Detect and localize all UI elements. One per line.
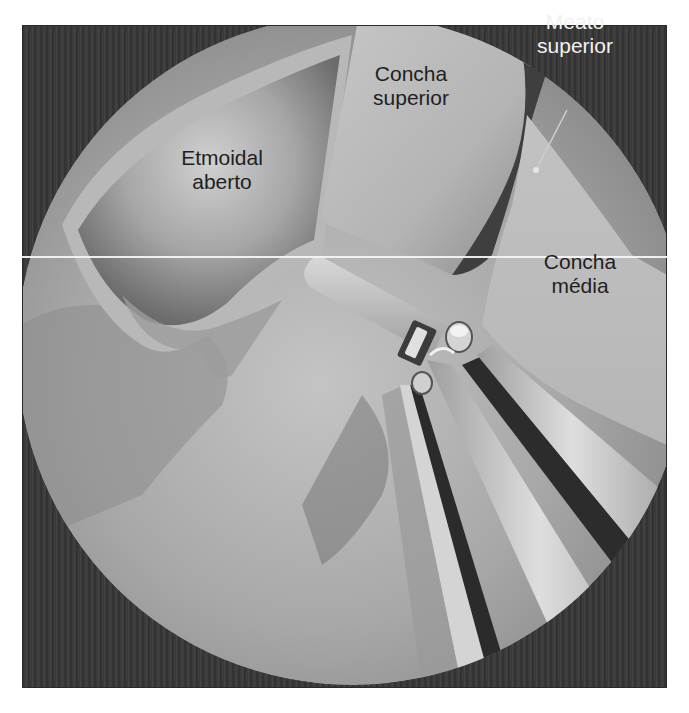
- endoscopic-view-illustration: [22, 25, 667, 688]
- label-etmoidal-aberto-line2: aberto: [174, 170, 270, 194]
- label-concha-superior: Concha superior: [365, 62, 457, 110]
- label-etmoidal-aberto-line1: Etmoidal: [174, 146, 270, 170]
- label-concha-superior-line1: Concha: [365, 62, 457, 86]
- label-concha-media-line1: Concha: [535, 250, 625, 274]
- label-concha-media-line2: média: [535, 274, 625, 298]
- label-meato-superior-line1: Meato: [530, 10, 620, 34]
- label-meato-superior: Meato superior: [530, 10, 620, 58]
- figure-caption-cropped: [0, 703, 689, 713]
- label-etmoidal-aberto: Etmoidal aberto: [174, 146, 270, 194]
- label-meato-superior-line2: superior: [530, 34, 620, 58]
- meato-leader-dot: [533, 167, 539, 173]
- label-concha-media: Concha média: [535, 250, 625, 298]
- label-concha-superior-line2: superior: [365, 86, 457, 110]
- endoscopic-circle: [22, 25, 667, 688]
- endoscopic-figure: [22, 25, 667, 688]
